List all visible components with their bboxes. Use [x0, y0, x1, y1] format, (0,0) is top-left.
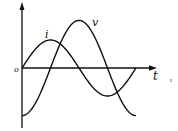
y-axis-arrow-icon — [20, 2, 25, 10]
origin-label: o — [14, 65, 19, 74]
stray-mark: ı — [170, 76, 172, 83]
current-label: i — [45, 28, 49, 41]
phase-diagram: o t i v ı — [0, 0, 178, 131]
time-axis-label: t — [153, 69, 158, 83]
voltage-label: v — [92, 16, 99, 29]
